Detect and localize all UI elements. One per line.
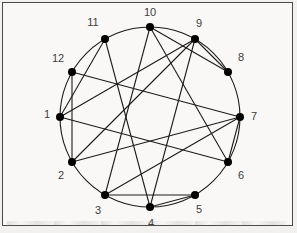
node-label-10: 10 [144,6,156,18]
graph-edge-1-9 [60,39,195,117]
node-label-12: 12 [52,52,64,64]
graph-edge-6-7 [228,117,240,162]
graph-canvas: 123456789101112 [3,3,294,225]
graph-node-5 [191,191,199,199]
node-label-7: 7 [251,110,257,122]
node-label-6: 6 [238,169,244,181]
graph-edge-3-10 [105,27,150,195]
graph-node-2 [68,158,76,166]
node-label-3: 3 [95,204,101,216]
graph-node-3 [101,191,109,199]
node-label-9: 9 [196,17,202,29]
node-label-4: 4 [148,217,154,225]
graph-node-6 [224,158,232,166]
node-label-5: 5 [196,203,202,215]
graph-edge-8-10 [150,27,228,72]
graph-node-1 [56,113,64,121]
graph-node-12 [68,68,76,76]
graph-node-11 [101,35,109,43]
graph-edge-4-5 [150,195,195,207]
node-label-8: 8 [238,51,244,63]
node-label-11: 11 [87,16,98,28]
graph-edge-4-9 [150,39,195,207]
graph-node-7 [236,113,244,121]
node-label-1: 1 [44,108,50,120]
figure-screenshot: 123456789101112 [0,0,297,233]
node-label-2: 2 [58,169,64,181]
graph-edge-1-11 [60,39,105,117]
graph-node-10 [146,23,154,31]
figure-frame: 123456789101112 [2,2,293,226]
graph-node-9 [191,35,199,43]
graph-circle [60,27,240,207]
graph-node-4 [146,203,154,211]
graph-edge-6-10 [150,27,228,162]
graph-node-8 [224,68,232,76]
graph-edge-1-6 [60,117,228,162]
graph-edge-3-7 [105,117,240,195]
